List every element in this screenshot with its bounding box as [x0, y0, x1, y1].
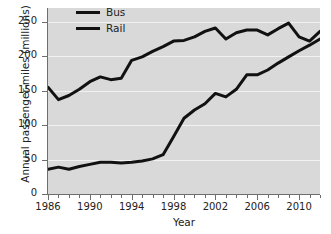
legend-swatch-bus: [76, 11, 100, 14]
x-tick-1999: [184, 195, 185, 198]
y-tick-150: [42, 91, 47, 92]
legend: Bus Rail: [76, 6, 146, 38]
x-tick-label-2002: 2002: [195, 202, 235, 212]
y-tick-100: [42, 125, 47, 126]
x-tick-label-1998: 1998: [154, 202, 194, 212]
x-tick-1990: [90, 195, 91, 200]
x-tick-label-2010: 2010: [279, 202, 319, 212]
x-tick-1994: [132, 195, 133, 200]
x-tick-1996: [153, 195, 154, 198]
x-tick-label-2006: 2006: [237, 202, 277, 212]
x-tick-2000: [194, 195, 195, 198]
x-tick-label-1994: 1994: [112, 202, 152, 212]
x-tick-1987: [58, 195, 59, 198]
x-tick-label-1990: 1990: [70, 202, 110, 212]
x-tick-2002: [215, 195, 216, 200]
y-tick-200: [42, 56, 47, 57]
legend-label-bus: Bus: [106, 7, 125, 18]
x-tick-2004: [236, 195, 237, 198]
x-tick-2003: [226, 195, 227, 198]
x-tick-1988: [69, 195, 70, 198]
x-tick-label-1986: 1986: [28, 202, 68, 212]
x-tick-1989: [79, 195, 80, 198]
x-tick-1995: [142, 195, 143, 198]
x-tick-2006: [257, 195, 258, 200]
y-tick-50: [42, 160, 47, 161]
x-axis-title: Year: [48, 216, 320, 228]
y-tick-label-0: 0: [31, 188, 37, 198]
y-tick-250: [42, 22, 47, 23]
x-tick-2008: [278, 195, 279, 198]
x-tick-2005: [247, 195, 248, 198]
y-axis-title: Annual passenger-miles (millions): [19, 0, 31, 189]
x-tick-1998: [174, 195, 175, 200]
line-chart: 050100150200250 198619901994199820022006…: [0, 0, 331, 234]
x-tick-1997: [163, 195, 164, 198]
x-tick-2009: [289, 195, 290, 198]
y-axis-line: [47, 8, 48, 195]
x-tick-2011: [310, 195, 311, 198]
x-tick-1992: [111, 195, 112, 198]
x-tick-1986: [48, 195, 49, 200]
legend-item-rail: Rail: [76, 22, 146, 35]
legend-label-rail: Rail: [106, 23, 125, 34]
series-line-rail: [48, 39, 320, 169]
x-tick-2010: [299, 195, 300, 200]
legend-item-bus: Bus: [76, 6, 146, 19]
y-tick-0: [42, 194, 47, 195]
x-tick-2001: [205, 195, 206, 198]
x-tick-1991: [100, 195, 101, 198]
x-tick-2012: [320, 195, 321, 198]
x-tick-2007: [268, 195, 269, 198]
legend-swatch-rail: [76, 27, 100, 30]
x-tick-1993: [121, 195, 122, 198]
